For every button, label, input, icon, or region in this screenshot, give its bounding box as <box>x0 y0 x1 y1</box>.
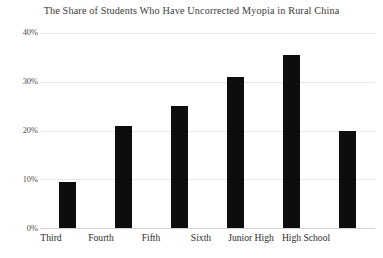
gridline-baseline-0 <box>40 228 375 229</box>
y-axis-tick-label: 40% <box>6 29 38 37</box>
plot-area <box>40 33 375 228</box>
x-axis-label-sixth: Sixth <box>176 232 226 244</box>
x-axis-label-junior-high: Junior High <box>222 232 280 244</box>
y-axis-tick-label: 30% <box>6 78 38 86</box>
bar-sixth <box>227 77 244 228</box>
x-axis-label-fourth: Fourth <box>76 232 126 244</box>
chart-title: The Share of Students Who Have Uncorrect… <box>0 5 383 16</box>
y-axis: 40% 30% 20% 10% 0% <box>0 0 38 258</box>
bar-fifth <box>171 106 188 228</box>
bar-chart: The Share of Students Who Have Uncorrect… <box>0 0 383 258</box>
bars-layer <box>40 33 375 228</box>
bar-junior-high <box>283 55 300 228</box>
x-axis: Third Fourth Fifth Sixth Junior High Hig… <box>0 232 383 252</box>
bar-fourth <box>115 126 132 228</box>
y-axis-tick-label: 20% <box>6 127 38 135</box>
x-axis-label-third: Third <box>26 232 76 244</box>
bar-high-school <box>339 131 356 229</box>
bar-third <box>59 182 76 228</box>
y-axis-tick-label: 10% <box>6 176 38 184</box>
x-axis-label-high-school: High School <box>277 232 335 244</box>
x-axis-label-fifth: Fifth <box>126 232 176 244</box>
